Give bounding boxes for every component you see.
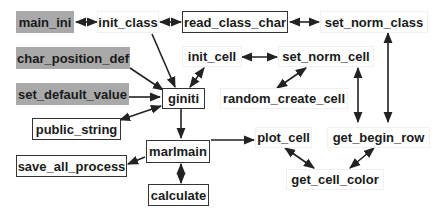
node-giniti: giniti	[162, 88, 205, 109]
node-plot-cell: plot_cell	[255, 127, 312, 148]
edge-init-class-giniti	[152, 34, 175, 87]
call-graph-diagram: main_ini init_class read_class_char set_…	[0, 0, 440, 218]
edge-set-norm-cell-random-create-cell	[277, 68, 306, 88]
edge-marlmain-save-all-process	[128, 157, 145, 164]
node-get-begin-row: get_begin_row	[327, 127, 430, 148]
edge-giniti-init-cell	[190, 68, 204, 87]
node-read-class-char: read_class_char	[182, 11, 288, 33]
edge-giniti-public-string	[120, 106, 161, 120]
node-set-norm-cell: set_norm_cell	[278, 46, 374, 67]
edge-get-begin-row-get-cell-color	[350, 148, 374, 168]
node-marlmain: marlmain	[146, 140, 210, 163]
edge-char-position-def-giniti	[130, 68, 163, 90]
node-save-all-process: save_all_process	[16, 155, 127, 177]
node-set-default-value: set_default_value	[16, 83, 129, 105]
node-public-string: public_string	[32, 118, 121, 140]
node-init-cell: init_cell	[182, 46, 242, 67]
node-char-position-def: char_position_def	[16, 47, 130, 69]
node-main-ini: main_ini	[16, 11, 74, 33]
node-random-create-cell: random_create_cell	[220, 88, 348, 109]
node-get-cell-color: get_cell_color	[286, 169, 384, 190]
node-set-norm-class: set_norm_class	[320, 11, 428, 33]
node-init-class: init_class	[97, 11, 159, 33]
edge-plot-cell-get-cell-color	[285, 148, 314, 168]
node-calculate: calculate	[148, 184, 209, 206]
